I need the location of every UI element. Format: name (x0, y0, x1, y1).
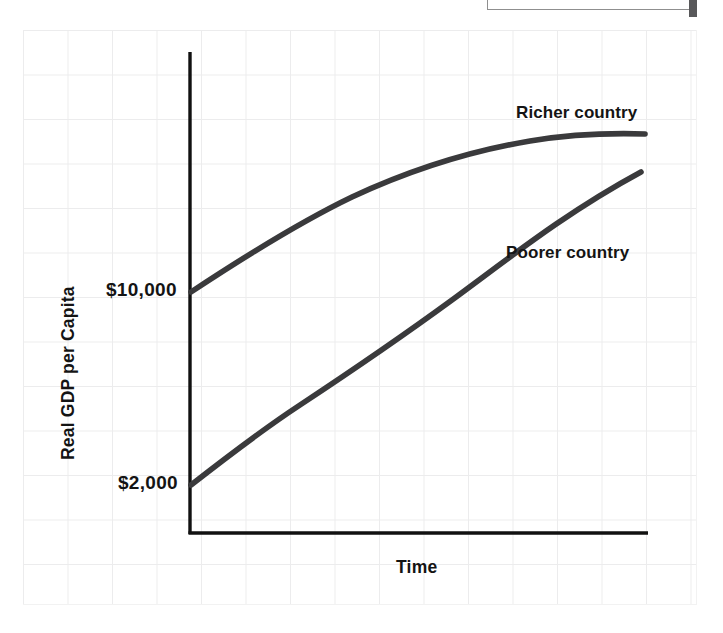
y-axis-title: Real GDP per Capita (58, 286, 79, 460)
chart-plot-area (0, 0, 723, 633)
series-label-richer-country: Richer country (516, 103, 637, 123)
chart-page: Hypothesis $10,000 $2,000 Real GDP per C… (0, 0, 723, 633)
x-axis-title: Time (396, 557, 437, 578)
y-axis-tick-label-10000: $10,000 (106, 279, 177, 301)
series-label-poorer-country: Poorer country (506, 243, 629, 263)
curve-poorer-country (191, 172, 641, 485)
y-axis-tick-label-2000: $2,000 (118, 472, 178, 494)
